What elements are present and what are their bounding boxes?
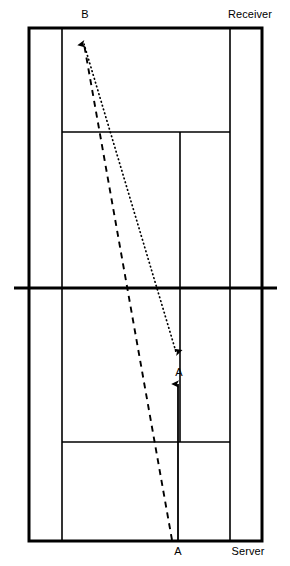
label-receiver: Receiver [228, 8, 272, 21]
label-b: B [81, 8, 88, 21]
tennis-court-diagram: B Receiver A A Server [0, 0, 290, 566]
court-outer-boundary [29, 28, 262, 541]
court-graphic [0, 0, 290, 566]
label-server: Server [232, 545, 265, 558]
label-a-top: A [175, 366, 182, 379]
serve-path-dotted [84, 44, 176, 352]
run-path-dashed [84, 44, 172, 540]
label-a-bottom: A [174, 545, 181, 558]
